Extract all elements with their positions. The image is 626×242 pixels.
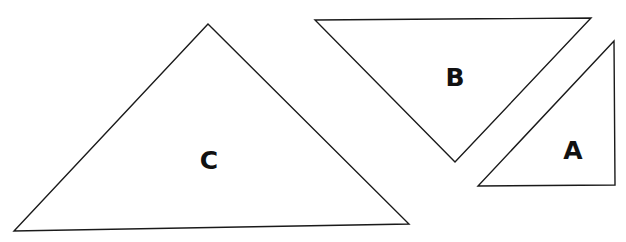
- triangle-c-label: C: [200, 146, 218, 175]
- triangle-b-label: B: [445, 63, 464, 92]
- triangle-a-label: A: [563, 136, 583, 165]
- triangle-diagram: C B A: [0, 0, 626, 242]
